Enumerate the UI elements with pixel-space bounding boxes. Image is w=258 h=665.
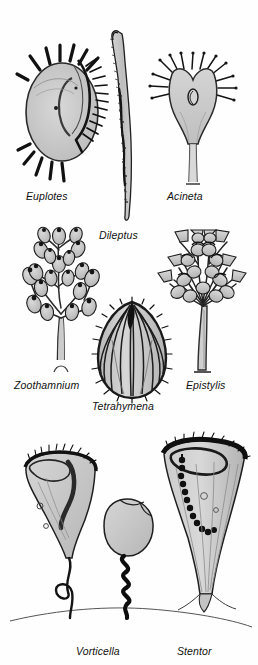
caption-acineta: Acineta (167, 190, 203, 202)
illustration-plate: Euplotes (0, 0, 258, 665)
figure-vorticella (16, 440, 166, 620)
caption-vorticella: Vorticella (76, 645, 120, 657)
figure-dileptus (104, 26, 144, 224)
figure-stentor (156, 438, 252, 622)
caption-epistylis: Epistylis (186, 379, 225, 391)
figure-acineta (148, 52, 240, 188)
caption-tetrahymena: Tetrahymena (92, 400, 154, 412)
figure-epistylis (154, 230, 250, 378)
caption-zoothamnium: Zoothamnium (14, 379, 79, 391)
caption-stentor: Stentor (177, 645, 212, 657)
figure-euplotes (16, 36, 112, 188)
caption-euplotes: Euplotes (26, 190, 68, 202)
